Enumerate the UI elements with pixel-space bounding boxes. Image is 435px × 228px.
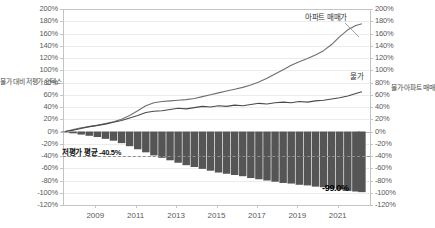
y-axis-label-l-180: 180% bbox=[20, 16, 58, 25]
bar bbox=[118, 132, 125, 144]
bar bbox=[320, 132, 327, 188]
bar bbox=[344, 132, 351, 191]
bar bbox=[174, 132, 181, 163]
x-tick bbox=[338, 205, 339, 208]
y-axis-label-r-140: 140% bbox=[375, 41, 415, 50]
bar bbox=[158, 132, 165, 158]
bar bbox=[191, 132, 198, 168]
bar bbox=[358, 132, 365, 193]
bar bbox=[182, 132, 189, 166]
bar-series bbox=[61, 132, 365, 193]
apartment-price-label: 아파트 매매가 bbox=[305, 11, 347, 22]
y-axis-label-l-120: 120% bbox=[20, 53, 58, 62]
bar bbox=[199, 132, 206, 169]
y-axis-label-r--80: -80% bbox=[375, 176, 415, 185]
x-tick bbox=[217, 205, 218, 208]
y-axis-label-l-60: 60% bbox=[20, 90, 58, 99]
y-axis-label-l-200: 200% bbox=[20, 4, 58, 13]
y-axis-label-r-100: 100% bbox=[375, 65, 415, 74]
bar bbox=[296, 132, 303, 185]
y-axis-label-r-0: 0% bbox=[375, 127, 415, 136]
bar bbox=[215, 132, 222, 173]
y-axis-label-l-160: 160% bbox=[20, 29, 58, 38]
y-axis-label-l--40: -40% bbox=[20, 151, 58, 160]
y-axis-label-l--120: -120% bbox=[20, 200, 58, 209]
y-axis-label-r-180: 180% bbox=[375, 16, 415, 25]
bar bbox=[69, 132, 76, 134]
x-tick bbox=[136, 205, 137, 208]
bar bbox=[102, 132, 109, 139]
line-series-아파트 매매가 bbox=[65, 24, 362, 132]
chart-root: 물가 대비 저평가 인덱스 물가·아파트 매매가 증감률 200%200%180… bbox=[0, 0, 435, 228]
y-axis-label-r-20: 20% bbox=[375, 114, 415, 123]
y-tick-r bbox=[370, 205, 373, 206]
y-axis-label-l-40: 40% bbox=[20, 102, 58, 111]
y-axis-label-l-140: 140% bbox=[20, 41, 58, 50]
cpi-label: 물가 bbox=[350, 70, 363, 81]
y-axis-label-r-200: 200% bbox=[375, 4, 415, 13]
bar bbox=[134, 132, 141, 150]
bar bbox=[304, 132, 311, 186]
y-axis-label-l--20: -20% bbox=[20, 139, 58, 148]
x-tick bbox=[176, 205, 177, 208]
undervalued-average-label: 저평가 평균 -40.5% bbox=[62, 146, 121, 157]
y-axis-label-r--20: -20% bbox=[375, 139, 415, 148]
bar bbox=[126, 132, 133, 147]
line-series-물가 bbox=[65, 92, 362, 132]
y-axis-label-l-0: 0% bbox=[20, 127, 58, 136]
x-tick bbox=[297, 205, 298, 208]
y-axis-label-r--100: -100% bbox=[375, 188, 415, 197]
y-axis-label-l--80: -80% bbox=[20, 176, 58, 185]
bar bbox=[231, 132, 238, 175]
plot-area bbox=[63, 9, 370, 205]
y-axis-label-l-80: 80% bbox=[20, 78, 58, 87]
y-axis-label-r-40: 40% bbox=[375, 102, 415, 111]
axis-spine-vertical bbox=[370, 9, 371, 205]
minimum-value-label: -99.0% bbox=[322, 183, 349, 193]
bar bbox=[239, 132, 246, 177]
x-axis-label-2021: 2021 bbox=[314, 211, 362, 220]
y-axis-label-r-160: 160% bbox=[375, 29, 415, 38]
bar bbox=[328, 132, 335, 189]
bar bbox=[86, 132, 93, 136]
bar bbox=[223, 132, 230, 174]
bar bbox=[110, 132, 117, 141]
y-axis-label-l-20: 20% bbox=[20, 114, 58, 123]
bar bbox=[94, 132, 101, 138]
bar bbox=[288, 132, 295, 184]
bar bbox=[336, 132, 343, 190]
y-axis-label-r--120: -120% bbox=[375, 200, 415, 209]
y-axis-label-r-120: 120% bbox=[375, 53, 415, 62]
x-tick bbox=[257, 205, 258, 208]
bar bbox=[150, 132, 157, 156]
y-axis-label-r-80: 80% bbox=[375, 78, 415, 87]
bar bbox=[77, 132, 84, 135]
bar bbox=[207, 132, 214, 171]
y-axis-label-l--100: -100% bbox=[20, 188, 58, 197]
bar bbox=[312, 132, 319, 187]
y-axis-label-l-100: 100% bbox=[20, 65, 58, 74]
x-tick bbox=[95, 205, 96, 208]
bar bbox=[247, 132, 254, 179]
y-axis-label-r--40: -40% bbox=[375, 151, 415, 160]
y-axis-label-r--60: -60% bbox=[375, 163, 415, 172]
chart-series-layer bbox=[63, 9, 370, 205]
y-axis-label-r-60: 60% bbox=[375, 90, 415, 99]
bar bbox=[142, 132, 149, 153]
y-axis-label-l--60: -60% bbox=[20, 163, 58, 172]
